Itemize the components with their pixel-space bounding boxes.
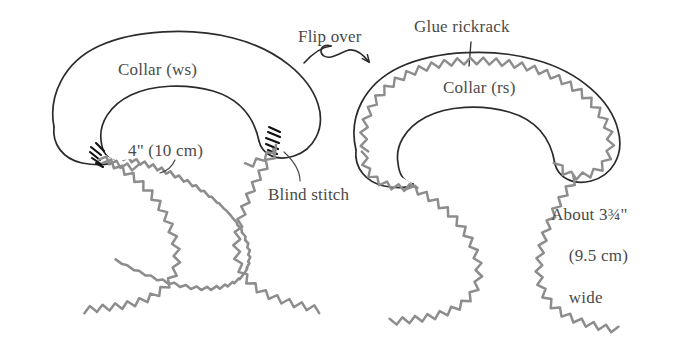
- label-blind-stitch: Blind stitch: [268, 185, 349, 206]
- label-collar-rs: Collar (rs): [443, 78, 516, 99]
- collar-width-line-2: (9.5 cm): [569, 246, 628, 265]
- left-collar-rickrack-tails: [104, 151, 250, 290]
- rickrack-stroke: [390, 186, 483, 325]
- right-collar-figure: [354, 52, 620, 187]
- label-collar-width-note: About 3¾" (9.5 cm) wide: [551, 205, 628, 309]
- rickrack-stroke: [84, 160, 180, 314]
- label-inner-opening-measurement: 4" (10 cm): [128, 141, 203, 162]
- right-collar-outline: [354, 52, 620, 187]
- collar-width-line-3: wide: [569, 288, 603, 307]
- collar-width-line-1: About 3¾": [551, 205, 628, 224]
- label-glue-rickrack: Glue rickrack: [414, 17, 510, 38]
- label-collar-ws: Collar (ws): [118, 60, 197, 81]
- label-flip-over: Flip over: [298, 27, 362, 48]
- diagram-canvas: Collar (ws) Collar (rs) Flip over Glue r…: [0, 0, 674, 356]
- rickrack-stroke: [233, 149, 319, 313]
- flip-over-arrow: [304, 45, 369, 63]
